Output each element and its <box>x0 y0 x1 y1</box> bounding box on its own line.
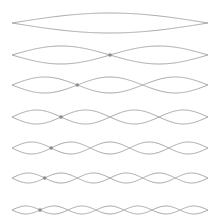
node-marker <box>49 146 53 150</box>
node-marker <box>38 208 42 212</box>
wave-mode-4 <box>12 110 208 124</box>
lower-envelope <box>12 23 208 33</box>
wave-mode-1 <box>12 13 208 33</box>
node-marker <box>43 176 47 180</box>
wave-mode-2 <box>12 46 208 64</box>
upper-envelope <box>12 77 208 93</box>
wave-mode-3 <box>12 77 208 93</box>
lower-envelope <box>12 173 208 183</box>
harmonics-canvas <box>0 0 222 222</box>
wave-mode-5 <box>12 142 208 154</box>
lower-envelope <box>12 77 208 93</box>
lower-envelope <box>12 110 208 124</box>
node-marker <box>108 53 112 57</box>
wave-mode-7 <box>12 206 208 214</box>
node-marker <box>76 83 80 87</box>
standing-waves-diagram <box>0 0 222 222</box>
upper-envelope <box>12 13 208 23</box>
node-marker <box>59 115 63 119</box>
wave-mode-6 <box>12 173 208 183</box>
